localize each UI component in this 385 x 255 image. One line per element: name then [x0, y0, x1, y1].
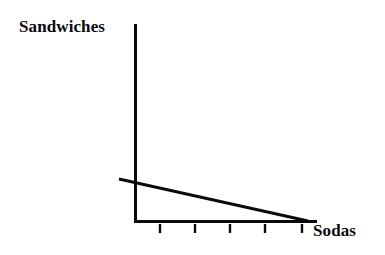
chart-background	[0, 0, 385, 255]
demand-curve-figure: Sandwiches Sodas	[0, 0, 385, 255]
chart-canvas	[0, 0, 385, 255]
x-axis-label: Sodas	[313, 222, 356, 239]
y-axis-label: Sandwiches	[19, 18, 105, 35]
